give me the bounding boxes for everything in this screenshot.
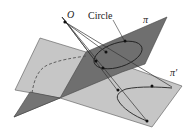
- label-circle: Circle: [88, 10, 113, 21]
- circle-leader: [113, 20, 124, 40]
- label-pi: π: [143, 14, 149, 25]
- projection-diagram: O Circle π π′: [0, 0, 193, 139]
- point-o: [63, 20, 66, 23]
- label-o: O: [67, 9, 74, 20]
- label-pi-prime: π′: [170, 67, 178, 78]
